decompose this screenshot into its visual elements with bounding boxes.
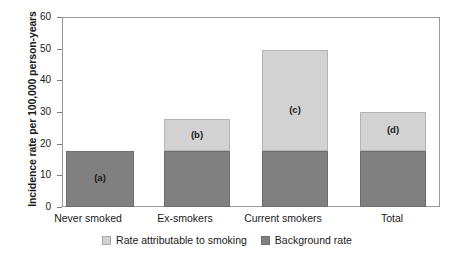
bar-segment-background-rate[interactable] [164, 151, 230, 207]
bar-ex-smokers[interactable]: (b) [164, 17, 230, 207]
y-tick-mark-0 [57, 207, 62, 208]
bar-annotation-b: (b) [164, 129, 230, 140]
y-tick-label-60: 60 [11, 10, 51, 23]
bar-total[interactable]: (d) [360, 17, 426, 207]
x-label-ex-smokers: Ex-smokers [133, 212, 237, 225]
legend-item-attributable[interactable]: Rate attributable to smoking [102, 234, 247, 246]
bar-current-smokers[interactable]: (c) [262, 17, 328, 207]
y-tick-label-50: 50 [11, 42, 51, 55]
stacked-bar-chart: Incidence rate per 100,000 person-years … [0, 0, 454, 261]
bar-annotation-a: (a) [66, 172, 134, 183]
bar-annotation-c: (c) [262, 104, 328, 115]
y-tick-label-40: 40 [11, 73, 51, 86]
bar-annotation-d: (d) [360, 124, 426, 135]
y-tick-label-30: 30 [11, 105, 51, 118]
legend-item-background-rate[interactable]: Background rate [261, 234, 352, 246]
plot-area: (a) (b) (c) (d) [62, 17, 440, 207]
x-label-current-smokers: Current smokers [228, 212, 338, 225]
legend-label-background-rate: Background rate [275, 234, 352, 246]
chart-legend: Rate attributable to smoking Background … [0, 234, 454, 246]
x-label-never-smoked: Never smoked [36, 212, 140, 225]
legend-label-attributable: Rate attributable to smoking [116, 234, 247, 246]
bar-segment-attributable-rate[interactable] [262, 50, 328, 151]
legend-swatch-icon [102, 236, 111, 245]
legend-swatch-icon [261, 236, 270, 245]
x-label-total: Total [340, 212, 444, 225]
y-tick-label-10: 10 [11, 168, 51, 181]
y-tick-label-20: 20 [11, 137, 51, 150]
bar-never-smoked[interactable]: (a) [66, 17, 134, 207]
bar-segment-background-rate[interactable] [262, 151, 328, 207]
bar-segment-background-rate[interactable] [360, 151, 426, 207]
